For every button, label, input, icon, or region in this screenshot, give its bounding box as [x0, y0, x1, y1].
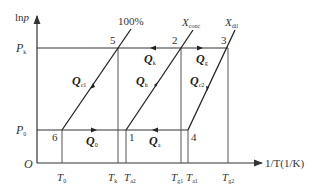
pk-label: Pk	[15, 41, 26, 55]
y-axis-label: lnp	[15, 11, 30, 23]
qg-label: Qg	[196, 52, 208, 66]
x-axis-label: 1/T(1/K)	[265, 157, 304, 170]
tg2-label: Tg2	[222, 171, 234, 184]
arrow-qk-left	[150, 46, 156, 51]
point-2: 2	[172, 34, 178, 46]
qc2-label: Qc2	[190, 74, 204, 88]
qc1-label: Qc1	[72, 74, 86, 88]
arrow-q0-right	[91, 128, 97, 133]
iso-lines	[62, 29, 235, 130]
origin-label: O	[24, 157, 33, 171]
point-4: 4	[191, 131, 197, 143]
point-6: 6	[52, 131, 58, 143]
t0-label: T0	[57, 171, 66, 184]
iso-100-label: 100%	[118, 15, 144, 27]
tk-label: Tk	[108, 171, 117, 184]
lnp-vs-inverse-temperature-diagram: lnp 1/T(1/K) O Pk P0 T0 Tk Ta2 Tg1 Ta1 T…	[0, 0, 330, 191]
tg1-label: Tg1	[171, 171, 183, 184]
point-5: 5	[110, 34, 116, 46]
arrow-qa-left	[152, 128, 158, 133]
p0-label: P0	[15, 123, 26, 137]
qa-label: Qa	[149, 134, 161, 148]
point-3: 3	[221, 34, 227, 46]
ta2-label: Ta2	[124, 171, 136, 184]
arrow-qg-right	[197, 46, 203, 51]
ta1-label: Ta1	[186, 171, 198, 184]
qk-label: Qk	[144, 52, 156, 66]
qh-label: Qh	[136, 74, 148, 88]
iso-conc-label: Xconc	[181, 16, 200, 29]
point-1: 1	[129, 131, 135, 143]
q0-label: Q0	[86, 134, 98, 148]
iso-dil-label: Xdil	[224, 16, 238, 29]
